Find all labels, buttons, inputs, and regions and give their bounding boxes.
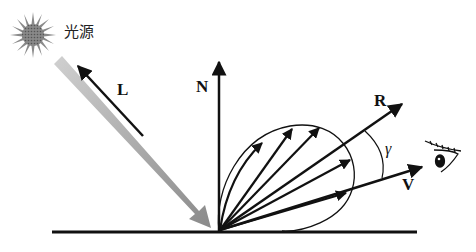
vector-label-L: L bbox=[117, 81, 128, 98]
angle-arc-gamma bbox=[365, 131, 383, 178]
lobe-arrows bbox=[220, 128, 350, 230]
specular-lobe bbox=[218, 125, 354, 231]
light-source-label: 光源 bbox=[64, 25, 94, 40]
angle-label-gamma: γ bbox=[385, 141, 391, 157]
vector-label-N: N bbox=[196, 78, 208, 95]
incident-light-ray bbox=[54, 56, 211, 228]
light-vector-L bbox=[78, 66, 143, 136]
phong-diagram: 光源 L N R V γ bbox=[0, 0, 476, 252]
vector-label-R: R bbox=[374, 92, 386, 109]
vector-label-V: V bbox=[402, 176, 414, 193]
eye-icon bbox=[425, 141, 461, 172]
reflection-vector-R bbox=[220, 104, 402, 230]
sun-icon bbox=[10, 12, 56, 58]
